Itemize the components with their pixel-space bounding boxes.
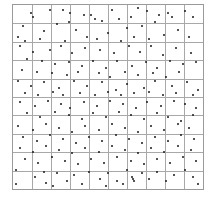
data-point (195, 61, 197, 63)
data-point (32, 151, 34, 153)
data-point (186, 81, 188, 83)
data-point (41, 60, 43, 62)
data-point (130, 160, 132, 162)
data-point (21, 69, 23, 71)
data-point (30, 85, 32, 87)
data-point (111, 9, 113, 11)
data-point (167, 12, 169, 14)
data-point (111, 145, 113, 147)
data-point (148, 178, 150, 180)
data-point (156, 112, 158, 114)
data-point (43, 30, 45, 32)
data-point (195, 160, 197, 162)
data-point (137, 74, 139, 76)
data-point (154, 21, 156, 23)
data-point (45, 182, 47, 184)
data-point (64, 160, 66, 162)
data-point (150, 147, 152, 149)
data-point (169, 162, 171, 164)
data-point (73, 80, 75, 82)
data-point (116, 180, 118, 182)
data-point (19, 101, 21, 103)
data-point (182, 63, 184, 65)
data-point (58, 127, 60, 129)
scatter-plot-area (12, 4, 204, 190)
data-point (98, 129, 100, 131)
data-point (146, 10, 148, 12)
data-point (156, 158, 158, 160)
data-point (150, 125, 152, 127)
data-point (197, 183, 199, 185)
data-point (158, 14, 160, 16)
data-point (120, 94, 122, 96)
data-point (90, 158, 92, 160)
data-point (24, 158, 26, 160)
data-point (177, 145, 179, 147)
data-point (173, 174, 175, 176)
data-point (17, 125, 19, 127)
data-point (163, 34, 165, 36)
data-point (47, 100, 49, 102)
data-point (120, 40, 122, 42)
data-point (133, 36, 135, 38)
data-point (180, 120, 182, 122)
data-point (86, 85, 88, 87)
data-point (115, 89, 117, 91)
data-point (17, 36, 19, 38)
data-point (137, 7, 139, 9)
data-point (162, 54, 164, 56)
data-point (182, 156, 184, 158)
data-point (184, 10, 186, 12)
data-point (69, 12, 71, 14)
data-point (56, 172, 58, 174)
grid-line-horizontal (13, 42, 203, 43)
data-point (190, 52, 192, 54)
data-point (15, 169, 17, 171)
data-point (75, 29, 77, 31)
data-point (39, 38, 41, 40)
data-point (133, 180, 135, 182)
data-point (39, 116, 41, 118)
data-point (79, 92, 81, 94)
data-point (88, 136, 90, 138)
data-point (162, 94, 164, 96)
data-point (15, 183, 17, 185)
data-point (154, 80, 156, 82)
data-point (193, 138, 195, 140)
data-point (94, 94, 96, 96)
data-point (34, 105, 36, 107)
data-point (101, 140, 103, 142)
data-point (32, 51, 34, 53)
data-point (177, 29, 179, 31)
data-point (107, 32, 109, 34)
data-point (19, 45, 21, 47)
data-point (124, 149, 126, 151)
data-point (99, 49, 101, 51)
data-point (184, 169, 186, 171)
data-point (109, 76, 111, 78)
data-point (160, 105, 162, 107)
data-point (64, 40, 66, 42)
data-point (105, 116, 107, 118)
data-point (107, 91, 109, 93)
data-point (36, 71, 38, 73)
data-point (34, 176, 36, 178)
data-point (141, 142, 143, 144)
data-point (124, 71, 126, 73)
data-point (150, 45, 152, 47)
data-point (90, 14, 92, 16)
data-point (94, 18, 96, 20)
data-point (124, 127, 126, 129)
data-point (101, 81, 103, 83)
data-point (83, 14, 85, 16)
data-point (148, 38, 150, 40)
data-point (49, 49, 51, 51)
data-point (116, 60, 118, 62)
data-point (156, 67, 158, 69)
data-point (77, 71, 79, 73)
data-point (71, 152, 73, 154)
data-point (171, 85, 173, 87)
data-point (165, 180, 167, 182)
data-point (107, 172, 109, 174)
data-point (81, 183, 83, 185)
